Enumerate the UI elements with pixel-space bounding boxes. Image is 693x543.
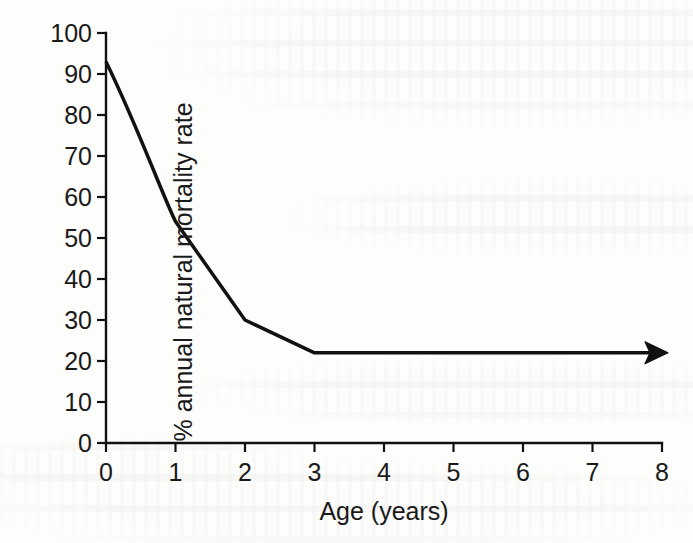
figure-container: 0102030405060708090100 012345678 % annua… (0, 0, 693, 543)
y-axis-label: % annual natural mortality rate (169, 102, 198, 441)
x-axis-label: Age (years) (319, 497, 448, 526)
plot-area (0, 0, 693, 543)
